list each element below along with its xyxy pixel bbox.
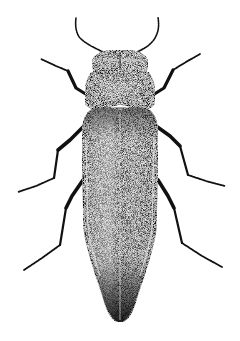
antenna-left (76, 18, 103, 52)
leg-front-left (41, 59, 92, 98)
leg-middle-left (18, 126, 84, 192)
beetle-drawing (0, 0, 240, 341)
elytron-right (120, 107, 158, 322)
head (92, 50, 148, 72)
leg-hind-left (24, 180, 83, 270)
pronotum (85, 72, 155, 109)
beetle-illustration (0, 0, 240, 341)
leg-hind-right (158, 180, 222, 267)
elytron-left (82, 107, 120, 322)
leg-middle-right (156, 126, 225, 186)
leg-front-right (148, 54, 200, 98)
antenna-right (137, 17, 159, 52)
